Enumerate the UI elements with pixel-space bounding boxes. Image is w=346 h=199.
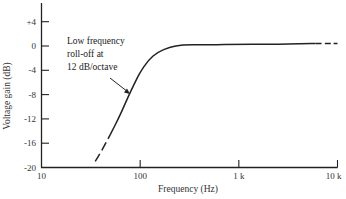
- y-ticks: +40-4-8-12-16-20: [24, 17, 49, 173]
- y-tick-label: 0: [32, 41, 37, 51]
- x-tick-label: 10 k: [326, 171, 342, 181]
- x-tick-label: 100: [133, 171, 147, 181]
- response-curve: [95, 44, 337, 162]
- x-ticks: 101001 k10 k: [37, 160, 342, 181]
- curve-dashed-low: [95, 134, 110, 161]
- annotation-line-3: 12 dB/octave: [67, 62, 117, 72]
- x-tick-label: 10: [37, 171, 47, 181]
- y-tick-label: -16: [24, 138, 36, 148]
- annotation-line-2: roll-off at: [67, 49, 104, 59]
- y-axis-title: Voltage gain (dB): [2, 62, 13, 129]
- y-tick-label: -20: [24, 163, 36, 173]
- annotation-line-1: Low frequency: [67, 36, 125, 46]
- y-tick-label: -4: [29, 65, 37, 75]
- annotation-arrow: [110, 78, 128, 92]
- curve-solid: [111, 44, 316, 135]
- y-tick-label: +4: [26, 17, 36, 27]
- rolloff-annotation: Low frequency roll-off at 12 dB/octave: [67, 36, 130, 94]
- y-tick-label: -8: [29, 90, 37, 100]
- frequency-response-chart: +40-4-8-12-16-20 101001 k10 k Frequency …: [0, 0, 346, 199]
- y-tick-label: -12: [24, 114, 36, 124]
- x-tick-label: 1 k: [233, 171, 245, 181]
- x-axis-title: Frequency (Hz): [158, 184, 218, 195]
